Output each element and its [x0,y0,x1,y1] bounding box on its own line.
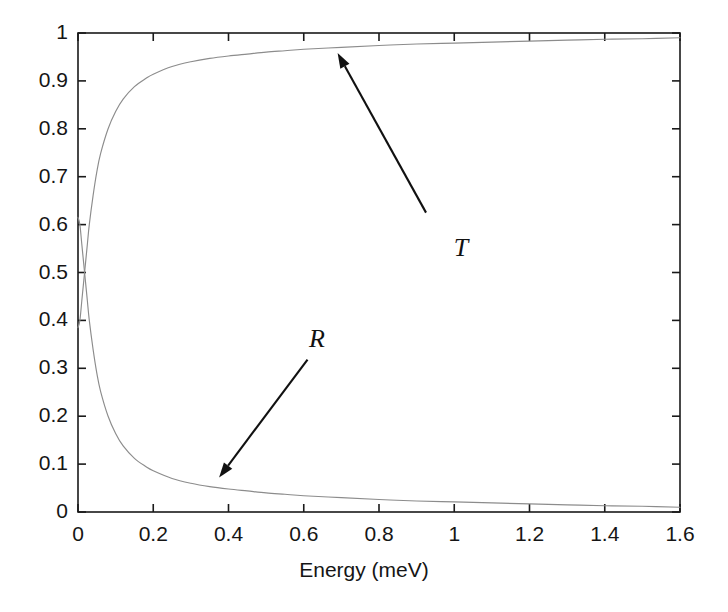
x-tick-label: 0.4 [189,522,269,546]
y-tick-label: 0.7 [39,164,68,188]
series-label-r: R [309,324,325,354]
y-tick-label: 1 [56,20,68,44]
x-tick-label: 0.6 [264,522,344,546]
y-tick-label: 0 [56,499,68,523]
figure-transmission-reflection: 00.10.20.30.40.50.60.70.80.91 00.20.40.6… [0,0,728,612]
y-tick-label: 0.2 [39,403,68,427]
axes [78,33,680,512]
x-tick-label: 1 [414,522,494,546]
x-tick-label: 0 [38,522,118,546]
y-tick-label: 0.6 [39,212,68,236]
y-tick-label: 0.1 [39,451,68,475]
x-tick-label: 1.4 [565,522,645,546]
x-tick-label: 0.8 [339,522,419,546]
plot-area [0,0,728,612]
x-tick-label: 0.2 [113,522,193,546]
y-tick-label: 0.3 [39,355,68,379]
series-label-t: T [454,233,468,263]
data-curves [78,38,680,507]
x-tick-label: 1.6 [640,522,720,546]
x-axis-title: Energy (meV) [0,558,728,582]
y-tick-label: 0.5 [39,260,68,284]
x-tick-label: 1.2 [490,522,570,546]
annotation-arrows [219,53,426,477]
y-tick-label: 0.8 [39,116,68,140]
y-tick-label: 0.4 [39,307,68,331]
y-tick-label: 0.9 [39,68,68,92]
